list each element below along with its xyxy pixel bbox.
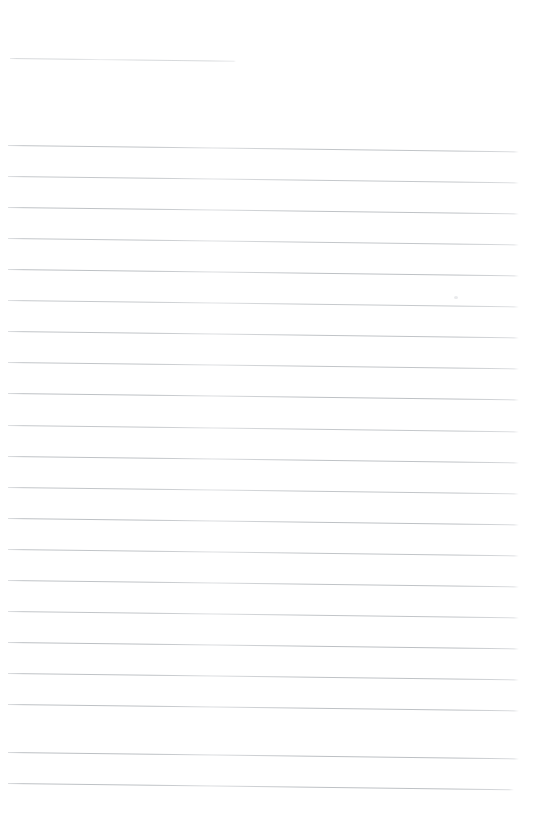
ruled-line <box>8 425 519 432</box>
ruled-line-ink <box>8 752 519 759</box>
ruled-line-ink <box>8 580 519 587</box>
scanned-page: Blank lined notebook page <box>0 0 542 831</box>
ruled-line <box>8 487 519 494</box>
ruled-line <box>8 580 519 587</box>
ruled-line <box>8 300 519 307</box>
ruled-line <box>8 145 519 152</box>
ruled-line <box>8 704 519 711</box>
ruled-line <box>8 176 519 183</box>
ruled-line-ink <box>8 783 514 790</box>
ruled-line-ink <box>8 642 519 649</box>
ruled-line <box>8 518 519 525</box>
ruled-line <box>8 207 519 214</box>
ruled-line-ink <box>8 238 519 245</box>
ruled-line <box>8 362 519 369</box>
ruled-line-ink <box>8 549 519 556</box>
ruled-line-ink <box>8 673 519 680</box>
ruled-line-ink <box>8 518 519 525</box>
ruled-line-ink <box>8 362 519 369</box>
ruled-line-ink <box>8 207 519 214</box>
ruled-line-ink <box>8 393 519 400</box>
scanner-speck <box>454 296 458 299</box>
ruled-line <box>8 783 514 790</box>
ruled-line-ink <box>8 300 519 307</box>
ruled-line <box>8 549 519 556</box>
ruled-line <box>8 456 519 463</box>
ruled-line-ink <box>8 145 519 152</box>
ruled-line <box>8 238 519 245</box>
ruled-line-ink <box>8 704 519 711</box>
ruled-line <box>8 331 519 338</box>
ruled-line-ink <box>10 58 236 62</box>
ruled-line-ink <box>8 456 519 463</box>
ruled-line <box>8 611 519 618</box>
ruled-line-ink <box>8 611 519 618</box>
ruled-line <box>8 393 519 400</box>
ruled-line <box>8 642 519 649</box>
ruled-line-ink <box>8 331 519 338</box>
ruled-line-ink <box>8 269 519 276</box>
ruled-line <box>8 269 519 276</box>
ruled-line <box>10 58 236 62</box>
ruled-line-ink <box>8 176 519 183</box>
ruled-line-ink <box>8 487 519 494</box>
ruled-line <box>8 673 519 680</box>
ruled-line <box>8 752 519 759</box>
ruled-line-ink <box>8 425 519 432</box>
